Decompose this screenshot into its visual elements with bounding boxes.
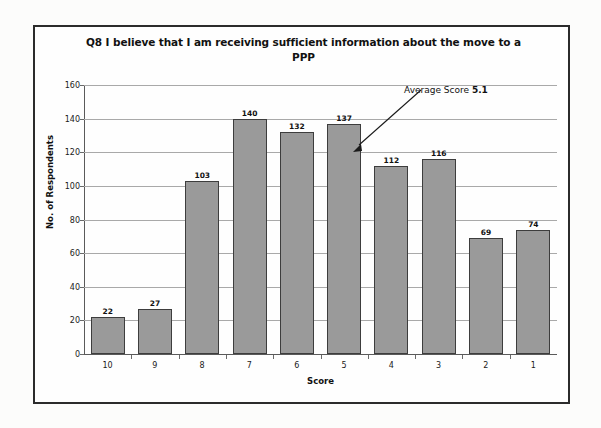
bar[interactable]: 22 [91,317,125,354]
bar-value-label: 27 [133,299,177,308]
gridline [84,220,557,221]
bar-value-label: 140 [228,109,272,118]
x-axis-tick-mark [368,355,369,359]
bar-value-label: 132 [275,122,319,131]
x-axis-tick-mark [131,355,132,359]
x-axis-tick-label: 3 [415,361,462,370]
x-axis-tick-label: 4 [368,361,415,370]
x-axis-tick-mark [226,355,227,359]
average-score-annotation-prefix: Average Score [404,85,472,95]
x-axis-tick-label: 8 [179,361,226,370]
chart-title: Q8 I believe that I am receiving suffici… [85,35,522,65]
bar-value-label: 112 [369,156,413,165]
x-axis-tick-label: 10 [84,361,131,370]
bar[interactable]: 69 [469,238,503,354]
bar[interactable]: 112 [374,166,408,354]
bar-value-label: 74 [511,220,555,229]
gridline [84,119,557,120]
gridline [84,186,557,187]
x-axis-tick-label: 6 [273,361,320,370]
average-score-annotation: Average Score 5.1 [404,85,488,95]
bar-value-label: 103 [180,171,224,180]
bar[interactable]: 137 [327,124,361,354]
x-axis-tick-mark [415,355,416,359]
bar[interactable]: 103 [185,181,219,354]
chart-page-frame: Q8 I believe that I am receiving suffici… [33,25,570,404]
x-axis-tick-label: 7 [226,361,273,370]
bar[interactable]: 132 [280,132,314,354]
plot-area: 22271031401321371121166974 [84,85,557,354]
x-axis-tick-mark [273,355,274,359]
x-axis-tick-mark [462,355,463,359]
bar-value-label: 116 [417,149,461,158]
average-score-annotation-value: 5.1 [472,85,488,95]
bar[interactable]: 116 [422,159,456,354]
x-axis-tick-mark [321,355,322,359]
bar[interactable]: 74 [516,230,550,354]
bar-value-label: 137 [322,114,366,123]
x-axis-title: Score [84,376,557,386]
gridline [84,152,557,153]
bar-value-label: 22 [86,307,130,316]
x-axis-tick-label: 5 [321,361,368,370]
bar[interactable]: 140 [233,119,267,354]
bar[interactable]: 27 [138,309,172,354]
x-axis-tick-label: 2 [462,361,509,370]
bar-value-label: 69 [464,228,508,237]
x-axis-tick-mark [179,355,180,359]
x-axis-tick-label: 9 [131,361,178,370]
x-axis-tick-label: 1 [510,361,557,370]
x-axis-tick-mark [510,355,511,359]
